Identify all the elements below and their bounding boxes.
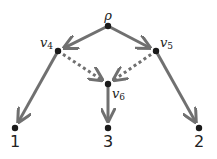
node-v4 bbox=[55, 48, 61, 54]
node-v6 bbox=[105, 81, 111, 87]
node-leaf2 bbox=[196, 125, 202, 131]
node-leaf1 bbox=[12, 125, 18, 131]
label-v5: v5 bbox=[160, 35, 173, 51]
edge-v4-v6 bbox=[58, 51, 102, 80]
label-v6: v6 bbox=[112, 86, 125, 102]
label-leaf1: 1 bbox=[10, 132, 20, 151]
edge-rho-v5 bbox=[108, 26, 150, 48]
label-leaf2: 2 bbox=[194, 132, 204, 151]
node-v5 bbox=[153, 48, 159, 54]
edge-v5-leaf2 bbox=[156, 51, 196, 122]
graph-diagram: ρv4v5v6132 bbox=[0, 0, 217, 159]
edge-v5-v6 bbox=[114, 51, 156, 80]
edge-rho-v4 bbox=[64, 26, 108, 48]
label-leaf3: 3 bbox=[103, 132, 113, 151]
edge-v4-leaf1 bbox=[18, 51, 58, 122]
node-leaf3 bbox=[105, 125, 111, 131]
label-rho: ρ bbox=[103, 8, 112, 23]
node-rho bbox=[105, 23, 111, 29]
label-v4: v4 bbox=[40, 35, 53, 51]
